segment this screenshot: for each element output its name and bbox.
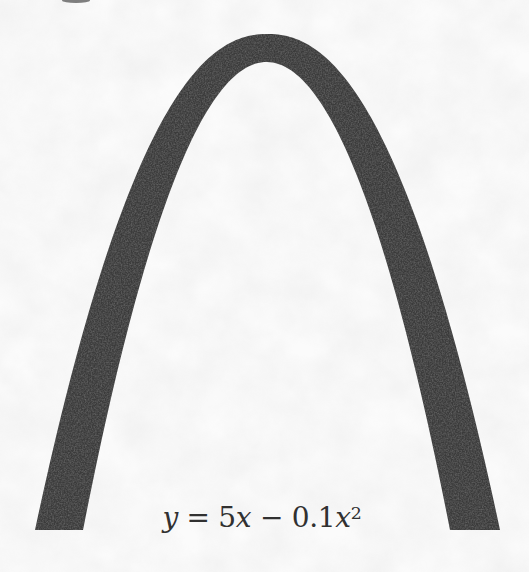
equation-var-x1: x <box>236 501 252 534</box>
arch-figure <box>0 0 529 572</box>
equation-exponent: 2 <box>351 503 362 523</box>
equation-var-y: y <box>162 501 178 534</box>
equation-label: y = 5x − 0.1x2 <box>0 501 524 534</box>
equation-minus-coeff: − 0.1 <box>251 501 335 534</box>
equation-equals-coeff: = 5 <box>178 501 236 534</box>
figure-canvas: y = 5x − 0.1x2 <box>0 0 529 572</box>
equation-var-x2: x <box>335 501 351 534</box>
